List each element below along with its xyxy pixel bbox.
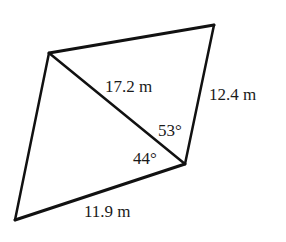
bottom-side-length-label: 11.9 m xyxy=(84,203,131,220)
quadrilateral-diagram: 17.2 m 12.4 m 11.9 m 53° 44° xyxy=(0,0,286,242)
lower-angle-label: 44° xyxy=(133,150,157,167)
upper-angle-label: 53° xyxy=(158,122,182,139)
diagonal xyxy=(49,53,185,164)
side-top xyxy=(49,25,214,53)
right-side-length-label: 12.4 m xyxy=(209,86,256,103)
side-left xyxy=(15,53,49,220)
diagonal-length-label: 17.2 m xyxy=(105,78,152,95)
diagram-canvas xyxy=(0,0,286,242)
